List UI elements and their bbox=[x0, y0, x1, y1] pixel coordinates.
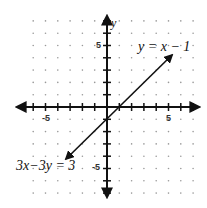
equation-label-bottom: 3x−3y = 3 bbox=[15, 158, 75, 173]
tick-label-x-neg5: -5 bbox=[42, 113, 50, 123]
coordinate-plane: y -5 5 5 -5 y = x − 1 3x−3y = 3 bbox=[0, 0, 207, 208]
tick-label-y-5: 5 bbox=[96, 40, 101, 50]
equation-label-top: y = x − 1 bbox=[136, 39, 190, 54]
tick-label-y-neg5: -5 bbox=[92, 162, 100, 172]
tick-label-x-5: 5 bbox=[166, 113, 171, 123]
y-axis-label: y bbox=[110, 16, 117, 30]
